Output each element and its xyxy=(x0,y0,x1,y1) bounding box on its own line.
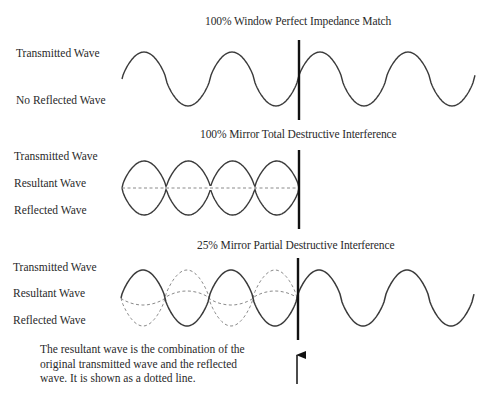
wave-diagram xyxy=(0,0,487,397)
section-2-transmitted-wave xyxy=(122,161,299,188)
section-3-graphic xyxy=(121,258,474,340)
section-1-graphic xyxy=(122,40,475,120)
section-2-graphic xyxy=(122,150,299,229)
section-2-reflected-wave xyxy=(122,188,299,215)
section-3-reflected-wave xyxy=(121,270,299,326)
